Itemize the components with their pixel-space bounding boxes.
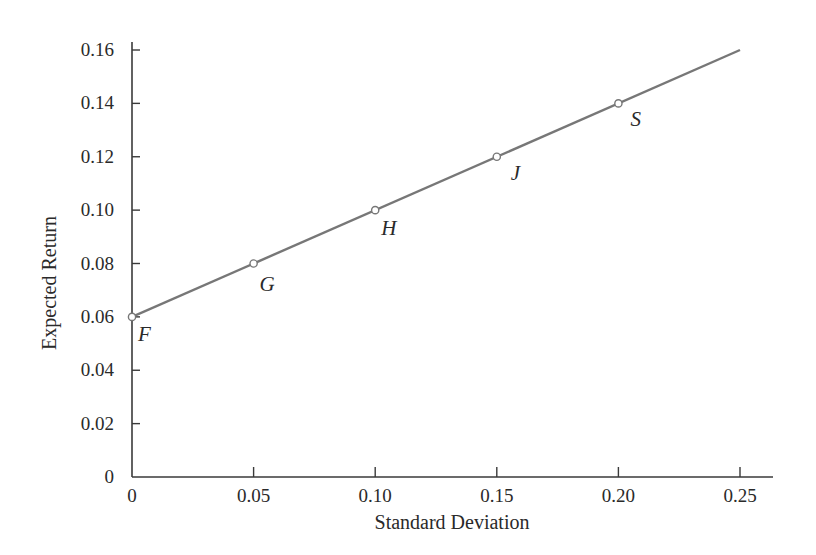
point-marker-f	[128, 313, 135, 320]
point-marker-h	[372, 207, 379, 214]
data-points: FGHJS	[128, 100, 641, 346]
y-tick-label: 0.04	[81, 359, 115, 380]
point-label-s: S	[630, 107, 641, 131]
chart-canvas: 00.020.040.060.080.100.120.140.16 00.050…	[0, 0, 816, 555]
point-marker-s	[615, 100, 622, 107]
y-tick-label: 0.02	[81, 413, 114, 434]
point-label-f: F	[137, 322, 151, 346]
x-tick-label: 0	[127, 485, 137, 506]
y-axis-title: Expected Return	[38, 216, 61, 350]
y-axis-ticks: 00.020.040.060.080.100.120.140.16	[81, 39, 140, 487]
data-series	[132, 50, 740, 317]
x-tick-label: 0.10	[359, 485, 392, 506]
point-label-h: H	[380, 216, 398, 240]
y-tick-label: 0.12	[81, 146, 114, 167]
x-axis-ticks: 00.050.100.150.200.25	[127, 467, 756, 506]
y-tick-label: 0.06	[81, 306, 114, 327]
y-tick-label: 0.14	[81, 92, 115, 113]
x-tick-label: 0.05	[237, 485, 270, 506]
point-marker-g	[250, 260, 257, 267]
y-tick-label: 0.10	[81, 199, 114, 220]
y-tick-label: 0	[105, 466, 115, 487]
x-axis-title: Standard Deviation	[375, 511, 530, 533]
x-tick-label: 0.25	[723, 485, 756, 506]
y-tick-label: 0.08	[81, 253, 114, 274]
axes	[132, 42, 773, 477]
y-tick-label: 0.16	[81, 39, 114, 60]
point-label-j: J	[511, 161, 522, 185]
x-tick-label: 0.20	[602, 485, 635, 506]
x-tick-label: 0.15	[480, 485, 513, 506]
series-line	[132, 50, 740, 317]
point-marker-j	[493, 153, 500, 160]
point-label-g: G	[260, 272, 275, 296]
